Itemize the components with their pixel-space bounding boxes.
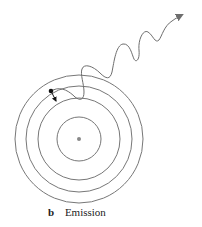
electron bbox=[49, 89, 54, 94]
caption-text: Emission bbox=[65, 206, 106, 218]
nucleus bbox=[77, 137, 81, 141]
figure-caption: b Emission bbox=[48, 206, 106, 218]
caption-letter: b bbox=[48, 206, 54, 218]
bohr-emission-diagram bbox=[0, 0, 202, 227]
transition-arrow bbox=[52, 93, 56, 101]
